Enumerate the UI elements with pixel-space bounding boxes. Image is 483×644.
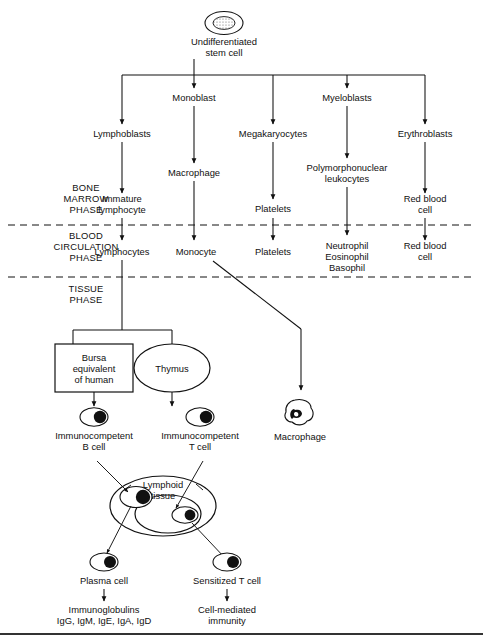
node-label-immunocompetent-t-line1: Immunocompetent [161, 430, 239, 441]
phase-label-tissue: TISSUE PHASE [68, 283, 103, 305]
node-label-immature-lymphocyte-line1: Immature [102, 193, 142, 204]
hematopoiesis-diagram: Undifferentiated stem cell Monoblast Mye… [0, 0, 483, 644]
node-label-rbc-marrow-line2: cell [418, 204, 432, 215]
node-label-granulocytes-line1: Neutrophil [326, 240, 369, 251]
node-label-rbc-blood-line2: cell [418, 251, 432, 262]
node-label-immunocompetent-b-line1: Immunocompetent [55, 430, 133, 441]
phase-tissue-line1: TISSUE [68, 283, 103, 294]
stem-cell-icon [205, 12, 243, 35]
node-label-monocyte: Monocyte [176, 246, 217, 257]
node-label-lymphocytes: Lymphocytes [95, 246, 150, 257]
node-label-bursa-line2: equivalent [73, 363, 116, 374]
node-label-stem-cell-line2: stem cell [206, 47, 243, 58]
node-label-stem-cell-line1: Undifferentiated [191, 36, 257, 47]
node-label-rbc-marrow-line1: Red blood [404, 193, 447, 204]
node-label-lymphoid-tissue-line1: Lymphoid [143, 479, 183, 490]
node-label-bursa-line1: Bursa [82, 352, 107, 363]
node-label-platelets-marrow: Platelets [255, 203, 291, 214]
immunocompetent-b-cell-icon [80, 408, 108, 426]
node-label-immunocompetent-t-line2: T cell [189, 441, 211, 452]
node-label-granulocytes-line3: Basophil [329, 262, 365, 273]
phase-bone-marrow-line1: BONE [72, 182, 99, 193]
node-label-cell-mediated-immunity-line2: immunity [208, 615, 246, 626]
node-label-immunoglobulins-line2: IgG, IgM, IgE, IgA, IgD [57, 615, 152, 626]
macrophage-tissue-icon [285, 399, 313, 424]
node-label-pmn-line2: leukocytes [325, 173, 370, 184]
node-label-immunocompetent-b-line2: B cell [83, 441, 106, 452]
node-label-thymus: Thymus [155, 363, 189, 374]
node-label-cell-mediated-immunity-line1: Cell-mediated [198, 604, 256, 615]
node-label-macrophage-tissue: Macrophage [274, 431, 326, 442]
node-label-sensitized-t-cell: Sensitized T cell [193, 575, 261, 586]
lymphoid-b-cell-icon [120, 487, 152, 508]
node-label-lymphoblasts: Lymphoblasts [93, 128, 151, 139]
node-label-platelets-blood: Platelets [255, 246, 291, 257]
node-label-pmn-line1: Polymorphonuclear [307, 162, 388, 173]
node-label-bursa-line3: of human [74, 374, 113, 385]
node-label-granulocytes-line2: Eosinophil [325, 251, 368, 262]
node-label-myeloblasts: Myeloblasts [322, 92, 372, 103]
node-label-plasma-cell: Plasma cell [80, 575, 128, 586]
node-label-erythroblasts: Erythroblasts [398, 128, 453, 139]
phase-blood-line1: BLOOD [69, 230, 103, 241]
page-background [0, 0, 483, 644]
node-label-lymphoid-tissue-line2: tissue [151, 490, 176, 501]
node-label-rbc-blood-line1: Red blood [404, 240, 447, 251]
node-label-megakaryocytes: Megakaryocytes [239, 128, 308, 139]
node-label-monoblast: Monoblast [172, 92, 216, 103]
node-label-immunoglobulins-line1: Immunoglobulins [69, 604, 140, 615]
node-label-immature-lymphocyte-line2: lymphocyte [98, 204, 145, 215]
immunocompetent-t-cell-icon [186, 408, 214, 426]
plasma-cell-icon [90, 553, 118, 571]
diagram-canvas: Undifferentiated stem cell Monoblast Mye… [0, 0, 483, 644]
sensitized-t-cell-icon [213, 553, 241, 571]
phase-tissue-line2: PHASE [70, 294, 103, 305]
node-label-macrophage-marrow: Macrophage [168, 167, 220, 178]
lymphoid-t-cell-icon [172, 507, 198, 523]
